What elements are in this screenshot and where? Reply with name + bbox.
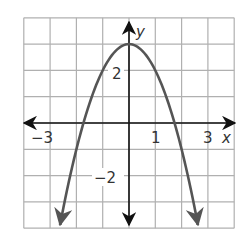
y-tick-label-neg2: −2 bbox=[94, 169, 116, 187]
x-tick-label-3: 3 bbox=[203, 129, 213, 147]
y-axis-label: y bbox=[135, 23, 146, 41]
x-tick-label-1: 1 bbox=[151, 129, 161, 147]
y-tick-label-2: 2 bbox=[112, 65, 122, 83]
coordinate-plane: 2 −2 −3 1 3 x y bbox=[0, 0, 248, 242]
x-axis-label: x bbox=[221, 129, 231, 147]
x-tick-label-neg3: −3 bbox=[31, 129, 53, 147]
curve-arrow-left bbox=[60, 214, 62, 225]
curve-arrow-right bbox=[196, 214, 198, 225]
